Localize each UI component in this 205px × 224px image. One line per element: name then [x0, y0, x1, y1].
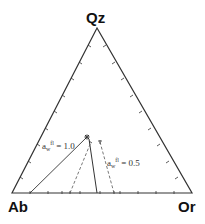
left-edge-ticks — [20, 45, 91, 179]
annotation-aw-0.5: awfl = 0.5 — [107, 157, 140, 169]
annot-sub: w — [111, 163, 115, 169]
apex-label-or: Or — [178, 199, 196, 214]
aw-1.0-right-line — [89, 139, 97, 193]
apex-label-ab: Ab — [8, 199, 28, 214]
ternary-triangle — [12, 28, 192, 193]
apex-label-qz: Qz — [86, 10, 105, 25]
annot-value: = 0.5 — [119, 158, 140, 168]
annotation-aw-1.0: awfl = 1.0 — [42, 140, 75, 152]
intersection-marker — [85, 135, 89, 139]
annot-sub: w — [46, 146, 50, 152]
point-marker — [89, 140, 102, 144]
ternary-diagram — [0, 0, 205, 224]
annot-value: = 1.0 — [54, 141, 75, 151]
